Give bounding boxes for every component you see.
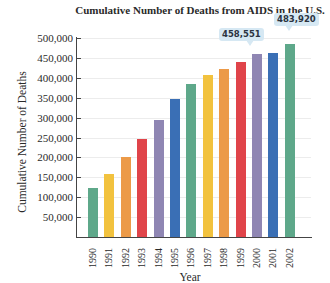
x-tick-label: 1993 xyxy=(137,248,147,268)
y-tick xyxy=(76,138,81,139)
x-tick-label: 1995 xyxy=(170,248,180,268)
bar-1994 xyxy=(154,120,164,237)
x-tick-label: 2000 xyxy=(252,248,262,268)
y-tick-label: 400,000 xyxy=(10,72,73,84)
y-tick xyxy=(76,177,81,178)
y-tick-label: 500,000 xyxy=(10,32,73,44)
x-tick-label: 1994 xyxy=(154,248,164,268)
bar-2002 xyxy=(285,44,295,237)
gridline xyxy=(77,38,311,39)
bar-1990 xyxy=(88,188,98,237)
bar-1993 xyxy=(137,139,147,237)
y-tick-label: 250,000 xyxy=(10,132,73,144)
x-tick-label: 2001 xyxy=(268,248,278,268)
bar-1998 xyxy=(219,69,229,237)
bar-1999 xyxy=(236,62,246,237)
y-tick xyxy=(76,58,81,59)
x-tick-label: 1990 xyxy=(88,248,98,268)
bar-1995 xyxy=(170,99,180,237)
callout-2000: 458,551 xyxy=(219,28,264,41)
y-tick xyxy=(76,118,81,119)
y-tick-label: 350,000 xyxy=(10,92,73,104)
bar-1992 xyxy=(121,157,131,237)
x-tick-label: 1997 xyxy=(203,248,213,268)
y-tick xyxy=(76,217,81,218)
x-tick-label: 1996 xyxy=(186,248,196,268)
x-tick-label: 1991 xyxy=(104,248,114,268)
y-tick xyxy=(76,157,81,158)
y-tick-label: 150,000 xyxy=(10,171,73,183)
callout-2000-pointer xyxy=(246,40,254,46)
y-tick xyxy=(76,98,81,99)
y-tick-label: 300,000 xyxy=(10,112,73,124)
y-tick-label: 200,000 xyxy=(10,151,73,163)
bar-2000 xyxy=(252,54,262,237)
y-tick-label: 50,000 xyxy=(10,211,73,223)
bar-2001 xyxy=(268,53,278,237)
plot-area: 50,000100,000150,000200,000250,000300,00… xyxy=(0,0,330,283)
bar-1996 xyxy=(186,84,196,237)
y-tick xyxy=(76,38,81,39)
y-tick xyxy=(76,197,81,198)
y-tick-label: 100,000 xyxy=(10,191,73,203)
callout-2002-pointer xyxy=(285,25,293,31)
x-axis-line xyxy=(76,237,312,238)
y-tick xyxy=(76,78,81,79)
callout-2002: 483,920 xyxy=(274,13,319,26)
x-tick-label: 1992 xyxy=(121,248,131,268)
x-tick-label: 2002 xyxy=(285,248,295,268)
bar-1991 xyxy=(104,174,114,237)
x-tick-label: 1999 xyxy=(236,248,246,268)
bar-1997 xyxy=(203,75,213,237)
y-tick-label: 450,000 xyxy=(10,52,73,64)
x-tick-label: 1998 xyxy=(219,248,229,268)
